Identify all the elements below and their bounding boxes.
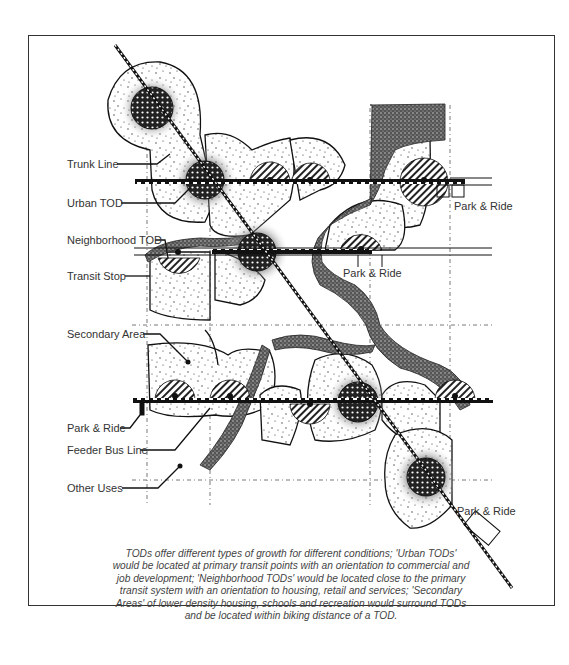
label-park-ride-bottom-right: Park & Ride — [457, 505, 516, 517]
label-transit-stop: Transit Stop — [67, 270, 126, 282]
label-other-uses: Other Uses — [67, 482, 123, 494]
label-secondary-area: Secondary Area — [67, 328, 145, 340]
label-neighborhood-tod: Neighborhood TOD — [67, 234, 162, 246]
label-park-ride-mid: Park & Ride — [343, 267, 402, 279]
label-park-ride-top-right: Park & Ride — [454, 200, 513, 212]
label-trunk-line: Trunk Line — [67, 158, 119, 170]
label-park-ride-left: Park & Ride — [67, 422, 126, 434]
figure-caption: TODs offer different types of growth for… — [112, 548, 470, 622]
label-feeder-bus-line: Feeder Bus Line — [67, 444, 148, 456]
label-urban-tod: Urban TOD — [67, 197, 123, 209]
